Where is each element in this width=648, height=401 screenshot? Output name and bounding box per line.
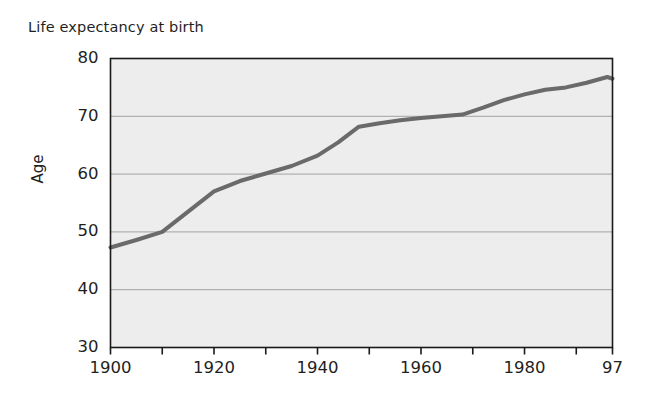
x-tick-label: 1900 bbox=[81, 360, 141, 377]
y-tick-label: 70 bbox=[57, 108, 99, 125]
plot-background bbox=[111, 59, 613, 348]
y-tick-label: 60 bbox=[57, 166, 99, 183]
y-tick-label: 80 bbox=[57, 50, 99, 67]
x-tick-label: 1920 bbox=[184, 360, 244, 377]
x-tick-label: 97 bbox=[583, 360, 643, 377]
chart-figure: Life expectancy at birth Age 80706050403… bbox=[0, 0, 648, 401]
x-axis-ticks bbox=[111, 348, 613, 355]
x-tick-label: 1940 bbox=[288, 360, 348, 377]
y-tick-label: 30 bbox=[57, 339, 99, 356]
x-tick-label: 1980 bbox=[495, 360, 555, 377]
y-tick-label: 40 bbox=[57, 281, 99, 298]
x-tick-label: 1960 bbox=[391, 360, 451, 377]
y-tick-label: 50 bbox=[57, 223, 99, 240]
